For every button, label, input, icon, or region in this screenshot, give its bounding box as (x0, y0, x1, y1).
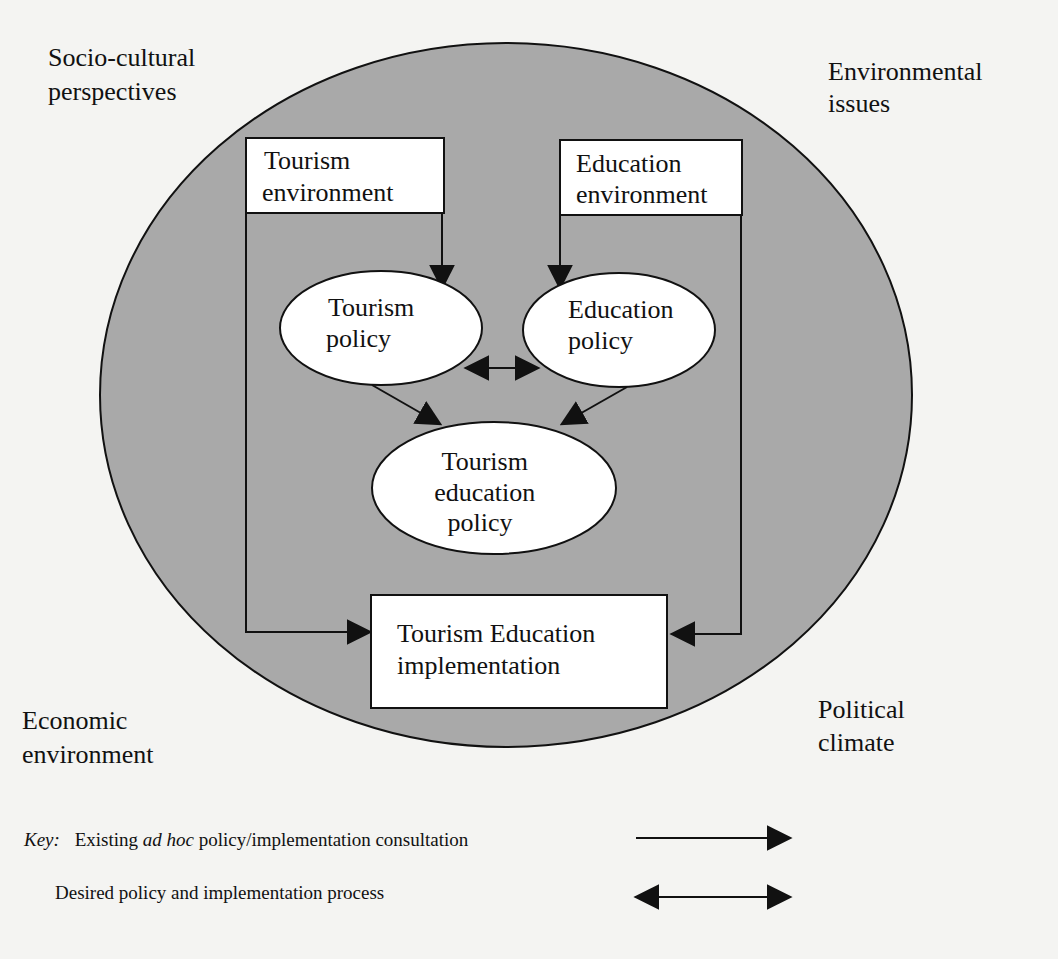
legend-desired-label: Desired policy and implementation proces… (55, 882, 384, 903)
label-socio-cultural: Socio-cultural perspectives (48, 43, 202, 106)
node-education-policy: Education policy (523, 273, 715, 387)
legend: Key: Existing ad hoc policy/implementati… (23, 829, 790, 903)
node-tourism-environment: Tourism environment (246, 138, 444, 213)
legend-existing-label: Key: Existing ad hoc policy/implementati… (23, 829, 469, 850)
node-tourism-policy: Tourism policy (280, 271, 482, 385)
node-tourism-education-policy: Tourism education policy (372, 422, 616, 554)
diagram-canvas: Socio-cultural perspectives Environmenta… (0, 0, 1058, 959)
label-economic-environment: Economic environment (22, 706, 154, 769)
node-tourism-education-implementation: Tourism Education implementation (371, 595, 667, 708)
node-education-environment: Education environment (560, 140, 742, 215)
label-political-climate: Political climate (818, 695, 911, 757)
label-environmental-issues: Environmental issues (828, 57, 989, 118)
